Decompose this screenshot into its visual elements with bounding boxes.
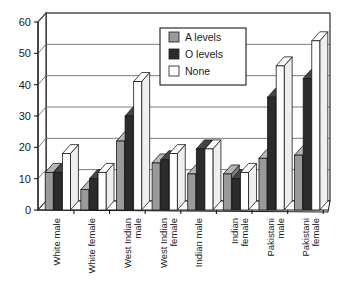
- category-label: Pakistanimale: [265, 218, 286, 257]
- legend-label: A levels: [185, 31, 221, 43]
- y-tick-label: 40: [19, 79, 31, 91]
- bar-front-face: [81, 190, 89, 210]
- category-label-line1: White male: [51, 218, 62, 266]
- bar-side-face: [70, 145, 78, 210]
- bar-front-face: [188, 174, 196, 210]
- bar-front-face: [152, 163, 160, 210]
- bar: [312, 32, 328, 210]
- bar-front-face: [268, 97, 276, 210]
- bar-side-face: [213, 140, 221, 210]
- bar-front-face: [276, 66, 284, 210]
- category-label: White male: [51, 218, 62, 266]
- category-label-line2: female: [168, 218, 179, 247]
- bar-chart: 0102030405060White maleWhite femaleWest …: [0, 0, 344, 287]
- category-label: West Indianfemale: [158, 218, 179, 268]
- bar-front-face: [303, 78, 311, 210]
- category-label-line1: White female: [86, 218, 97, 273]
- bar-front-face: [196, 149, 204, 210]
- legend-label: O levels: [185, 48, 223, 60]
- bar-front-face: [232, 179, 240, 210]
- category-label: West Indianmale: [122, 218, 143, 268]
- bar-front-face: [312, 41, 320, 210]
- legend-label: None: [185, 65, 210, 77]
- legend: A levelsO levelsNone: [160, 28, 246, 85]
- bar-front-face: [205, 149, 213, 210]
- bar: [276, 57, 292, 210]
- y-tick-label: 20: [19, 141, 31, 153]
- category-label-line2: female: [239, 218, 250, 247]
- y-tick-label: 50: [19, 47, 31, 59]
- bar: [62, 145, 78, 210]
- bar: [205, 140, 221, 210]
- category-label: White female: [86, 218, 97, 273]
- bar-group: [223, 163, 256, 214]
- category-label-line2: male: [275, 218, 286, 239]
- bar-side-face: [320, 32, 328, 210]
- bar: [169, 145, 185, 210]
- y-tick-label: 0: [25, 204, 31, 216]
- y-tick-label: 60: [19, 16, 31, 28]
- y-tick-label: 30: [19, 110, 31, 122]
- bar-front-face: [241, 172, 249, 210]
- bar-front-face: [116, 141, 124, 210]
- legend-swatch: [169, 32, 179, 42]
- category-label-line2: male: [132, 218, 143, 239]
- bar-front-face: [223, 174, 231, 210]
- bar-front-face: [161, 160, 169, 210]
- category-label: Indianfemale: [229, 218, 250, 247]
- legend-swatch: [169, 49, 179, 59]
- category-label: Pakistanifemale: [300, 218, 321, 257]
- category-label: Indian male: [193, 218, 204, 267]
- bar-side-face: [142, 73, 150, 210]
- bar-front-face: [295, 155, 303, 210]
- bar-front-face: [134, 82, 142, 210]
- bar: [98, 163, 114, 210]
- bar-front-face: [98, 172, 106, 210]
- category-label-line2: female: [310, 218, 321, 247]
- legend-swatch: [169, 66, 179, 76]
- x-axis-labels: White maleWhite femaleWest IndianmaleWes…: [51, 218, 321, 273]
- bar-front-face: [54, 172, 62, 210]
- y-tick-label: 10: [19, 173, 31, 185]
- bar-side-face: [177, 145, 185, 210]
- chart-canvas: 0102030405060White maleWhite femaleWest …: [0, 0, 344, 287]
- bar-front-face: [62, 154, 70, 210]
- bar: [134, 73, 150, 210]
- bar-front-face: [89, 179, 97, 210]
- bar-front-face: [45, 172, 53, 210]
- bar-front-face: [259, 158, 267, 210]
- bar-front-face: [169, 154, 177, 210]
- bar-front-face: [125, 116, 133, 210]
- bar: [241, 163, 257, 210]
- category-label-line1: Indian male: [193, 218, 204, 267]
- bar-side-face: [284, 57, 292, 210]
